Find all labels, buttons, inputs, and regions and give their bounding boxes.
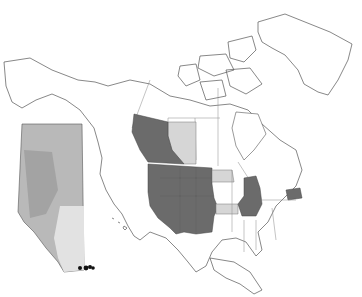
region-north-dakota [212, 170, 234, 182]
region-pennsylvania [286, 188, 302, 200]
arctic-islands [178, 36, 262, 100]
distribution-map [0, 0, 362, 297]
occurrence-point [78, 266, 82, 270]
occurrence-point [91, 266, 95, 270]
region-kansas [216, 204, 238, 214]
central-america [210, 258, 262, 294]
greenland [258, 14, 352, 95]
alberta-inset [18, 124, 95, 272]
occurrence-point [84, 266, 89, 271]
